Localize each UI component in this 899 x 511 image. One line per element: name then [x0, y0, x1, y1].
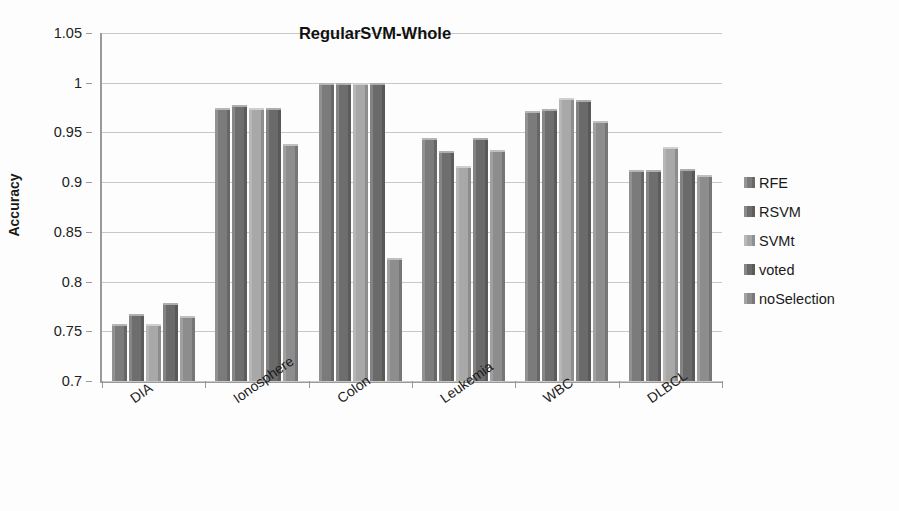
bar	[180, 316, 195, 381]
legend-swatch-icon	[744, 206, 755, 217]
y-axis-tick-mark	[86, 33, 92, 34]
bar	[112, 324, 127, 381]
bar	[422, 138, 437, 381]
x-axis-tick-mark	[412, 381, 413, 388]
x-axis-label-dia: DIA	[127, 380, 155, 406]
bar	[646, 170, 661, 381]
bar	[593, 121, 608, 382]
legend-item-voted[interactable]: voted	[744, 255, 835, 284]
bar	[249, 108, 264, 381]
legend-item-svmt[interactable]: SVMt	[744, 226, 835, 255]
bar	[576, 100, 591, 381]
y-axis-tick-label: 1.05	[54, 25, 82, 41]
bar	[353, 83, 368, 381]
bar	[336, 83, 351, 381]
chart-title: RegularSVM-Whole	[260, 24, 490, 43]
legend-item-noselection[interactable]: noSelection	[744, 284, 835, 313]
bar	[663, 147, 678, 381]
bar	[266, 108, 281, 381]
y-axis-tick-label: 0.75	[54, 323, 82, 339]
y-axis-tick-mark	[86, 182, 92, 183]
bar	[146, 324, 161, 381]
bar-group	[515, 33, 618, 381]
legend-item-label: RSVM	[759, 204, 801, 220]
bar-group	[205, 33, 308, 381]
bar	[680, 169, 695, 381]
legend-item-label: SVMt	[759, 233, 794, 249]
legend-item-label: RFE	[759, 175, 788, 191]
x-axis-tick-mark	[309, 381, 310, 388]
y-axis-tick-label: 0.85	[54, 224, 82, 240]
y-axis-tick-mark	[86, 331, 92, 332]
x-axis-tick-mark	[205, 381, 206, 388]
plot-area	[100, 33, 722, 383]
bar	[542, 109, 557, 381]
legend-item-rsvm[interactable]: RSVM	[744, 197, 835, 226]
legend-swatch-icon	[744, 293, 755, 304]
bar	[163, 303, 178, 381]
bar	[319, 83, 334, 381]
legend-item-label: noSelection	[759, 291, 835, 307]
y-axis-tick-label: 0.7	[62, 373, 82, 389]
legend-swatch-icon	[744, 264, 755, 275]
chart-legend: RFERSVMSVMtvotednoSelection	[744, 168, 835, 313]
x-axis-tick-mark	[722, 381, 723, 388]
bar	[525, 111, 540, 381]
bar	[473, 138, 488, 381]
x-axis-tick-mark	[619, 381, 620, 388]
y-axis-tick-label: 1	[74, 75, 82, 91]
chart-figure: Accuracy 1.0510.950.90.850.80.750.7 Regu…	[0, 0, 899, 511]
bar	[283, 144, 298, 381]
bar	[215, 108, 230, 381]
legend-item-rfe[interactable]: RFE	[744, 168, 835, 197]
y-axis-tick-mark	[86, 232, 92, 233]
y-axis-tick-mark	[86, 83, 92, 84]
y-axis-tick-labels: 1.0510.950.90.850.80.750.7	[0, 33, 92, 381]
legend-swatch-icon	[744, 177, 755, 188]
x-axis-tick-mark	[102, 381, 103, 388]
y-axis-tick-label: 0.8	[62, 274, 82, 290]
y-axis-tick-label: 0.95	[54, 124, 82, 140]
y-axis-tick-label: 0.9	[62, 174, 82, 190]
y-axis-tick-mark	[86, 381, 92, 382]
bar	[439, 151, 454, 381]
bar	[490, 150, 505, 381]
y-axis-tick-mark	[86, 282, 92, 283]
bar	[387, 258, 402, 381]
x-axis-tick-mark	[515, 381, 516, 388]
bar	[232, 105, 247, 381]
bar-group	[102, 33, 205, 381]
bar	[456, 166, 471, 381]
legend-swatch-icon	[744, 235, 755, 246]
y-axis-tick-mark	[86, 132, 92, 133]
bar-group	[619, 33, 722, 381]
bar	[129, 314, 144, 381]
bar	[559, 98, 574, 381]
legend-item-label: voted	[759, 262, 794, 278]
bar	[629, 170, 644, 381]
bar-group	[309, 33, 412, 381]
bar	[370, 83, 385, 381]
bar	[697, 175, 712, 381]
bar-group	[412, 33, 515, 381]
